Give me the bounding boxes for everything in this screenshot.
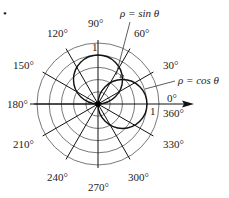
sin-curve-label: ρ = sin θ <box>119 7 160 19</box>
unit-radius-label: 1 <box>92 41 98 53</box>
angle-label: 240° <box>47 171 68 183</box>
angle-label: 150° <box>13 59 34 71</box>
angle-label: 270° <box>88 181 109 193</box>
angle-label: 90° <box>88 17 103 29</box>
angle-label: 0° <box>167 92 177 104</box>
polar-diagram: • 90°60°30°0°360°120°150°180°210°240°270… <box>0 0 229 198</box>
figure-marker: • <box>3 7 7 19</box>
pole-point <box>95 101 100 106</box>
spoke-120 <box>66 49 98 104</box>
spoke-60 <box>98 49 130 104</box>
spoke-300 <box>98 104 130 159</box>
angle-label: 300° <box>128 171 149 183</box>
angle-label: 360° <box>163 107 184 119</box>
unit-radius-label: 1 <box>150 105 156 117</box>
spoke-240 <box>66 104 98 159</box>
spoke-30 <box>98 72 153 104</box>
angle-label: 210° <box>13 138 34 150</box>
angle-label: 120° <box>47 27 68 39</box>
spoke-330 <box>98 104 153 136</box>
angle-label: 180° <box>7 98 28 110</box>
spoke-150 <box>43 72 98 104</box>
cos-curve-label: ρ = cos θ <box>177 74 220 86</box>
angle-label: 330° <box>163 138 184 150</box>
angle-label: 60° <box>134 27 149 39</box>
spoke-210 <box>43 104 98 136</box>
angle-label: 30° <box>163 59 178 71</box>
